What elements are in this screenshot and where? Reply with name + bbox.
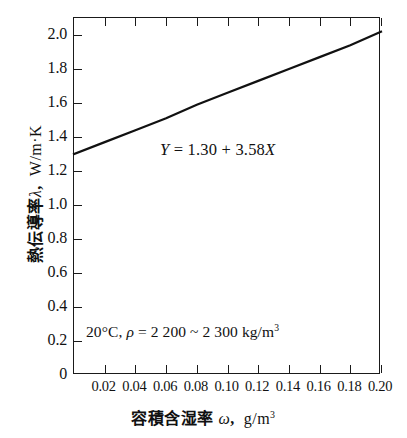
plot-area xyxy=(73,17,380,374)
x-axis-tick-top xyxy=(258,18,259,26)
y-axis-tick xyxy=(74,35,82,36)
equation-annotation: Y = 1.30 + 3.58X xyxy=(160,140,275,160)
y-axis-title-unit: W/m·K xyxy=(27,125,44,176)
x-axis-tick-label: 0.20 xyxy=(358,379,402,394)
y-axis-tick xyxy=(74,239,82,240)
condition-density: = 2 200 ~ 2 300 kg/m xyxy=(134,323,274,340)
data-line-svg xyxy=(74,18,381,375)
x-axis-tick-top xyxy=(228,18,229,26)
y-axis-tick xyxy=(74,171,82,172)
x-axis-title-comma: , xyxy=(230,410,244,427)
y-axis-tick-label: 2.0 xyxy=(25,26,67,42)
y-axis-tick xyxy=(74,273,82,274)
x-axis-tick-top xyxy=(166,18,167,26)
y-axis-tick-label: 0.2 xyxy=(25,332,67,348)
y-axis-title-name: 熱伝導率 xyxy=(27,197,44,263)
x-axis-tick-top xyxy=(105,18,106,26)
y-axis-tick xyxy=(74,137,82,138)
condition-annotation: 20°C, ρ = 2 200 ~ 2 300 kg/m3 xyxy=(86,323,279,341)
condition-temperature: 20°C, xyxy=(86,323,126,340)
x-axis-tick xyxy=(197,365,198,373)
data-line-series xyxy=(74,32,381,154)
x-axis-tick-labels: 0.020.040.060.080.100.120.140.160.180.20 xyxy=(0,379,407,399)
x-axis-tick-top xyxy=(289,18,290,26)
x-axis-tick-top xyxy=(350,18,351,26)
x-axis-tick xyxy=(289,365,290,373)
x-axis-tick xyxy=(258,365,259,373)
x-axis-title-symbol: ω xyxy=(218,410,230,427)
y-axis-tick xyxy=(74,307,82,308)
equation-equals: = xyxy=(169,140,187,159)
x-axis-title-unit: g/m xyxy=(244,410,270,427)
x-axis-tick-top xyxy=(135,18,136,26)
x-axis-tick xyxy=(381,365,382,373)
x-axis-tick-top xyxy=(381,18,382,26)
y-axis-title-symbol: λ xyxy=(27,190,44,197)
y-axis-tick xyxy=(74,205,82,206)
equation-intercept: 1.30 xyxy=(188,140,218,159)
chart-figure: 00.20.40.60.81.01.21.41.61.82.0 熱伝導率λ, W… xyxy=(0,0,407,438)
y-axis-tick xyxy=(74,69,82,70)
x-axis-title-name: 容積含湿率 xyxy=(131,410,214,427)
x-axis-tick xyxy=(228,365,229,373)
x-axis-tick-top xyxy=(320,18,321,26)
x-axis-title: 容積含湿率 ω, g/m3 xyxy=(0,405,407,429)
x-axis-tick xyxy=(320,365,321,373)
x-axis-tick xyxy=(135,365,136,373)
condition-density-exponent: 3 xyxy=(274,322,279,333)
x-axis-tick xyxy=(166,365,167,373)
equation-slope: 3.58 xyxy=(235,140,265,159)
y-axis-tick xyxy=(74,341,82,342)
equation-variable: X xyxy=(265,140,275,159)
y-axis-tick xyxy=(74,103,82,104)
x-axis-title-unit-exponent: 3 xyxy=(270,409,275,420)
equation-plus: + xyxy=(217,140,235,159)
x-axis-tick-top xyxy=(197,18,198,26)
y-axis-title: 熱伝導率λ, W/m·K xyxy=(22,64,46,324)
y-axis-title-comma: , xyxy=(27,176,44,190)
x-axis-tick xyxy=(350,365,351,373)
x-axis-tick xyxy=(105,365,106,373)
equation-lhs: Y xyxy=(160,140,169,159)
condition-rho-symbol: ρ xyxy=(126,323,134,340)
